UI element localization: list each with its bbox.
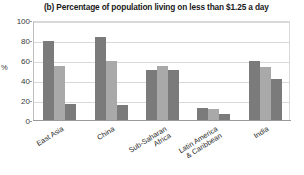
chart-title: (b) Percentage of population living on l… (44, 2, 300, 12)
y-tick-label: 100 (4, 17, 30, 26)
bar (117, 105, 128, 121)
bar (260, 67, 271, 121)
gridline (34, 42, 289, 43)
bar (271, 79, 282, 121)
y-tick-label: 20 (4, 97, 30, 106)
bar (157, 66, 168, 121)
y-tick-mark (29, 21, 32, 22)
y-tick-label: 60 (4, 57, 30, 66)
x-tick-label-line: India (252, 124, 270, 140)
x-tick-label-line: East Asia (34, 124, 65, 148)
y-tick-mark (29, 41, 32, 42)
y-tick-mark (29, 121, 32, 122)
chart-figure: (b) Percentage of population living on l… (0, 0, 304, 175)
y-tick-label: 80 (4, 37, 30, 46)
bar (168, 70, 179, 121)
y-tick-mark (29, 101, 32, 102)
bar (65, 104, 76, 121)
y-tick-mark (29, 81, 32, 82)
bar (43, 41, 54, 121)
bar (54, 66, 65, 121)
y-tick-label: 0 (4, 117, 30, 126)
x-tick-label-line: China (95, 124, 116, 142)
y-axis: 020406080100 (0, 21, 30, 121)
y-tick-label: 40 (4, 77, 30, 86)
bar (95, 37, 106, 121)
plot-area (33, 21, 290, 121)
bar (146, 70, 157, 121)
bar (106, 61, 117, 121)
y-tick-mark (29, 61, 32, 62)
gridline (34, 22, 289, 23)
bar (249, 61, 260, 121)
x-axis-labels: East AsiaChinaSub-SaharanAfricaLatin Ame… (33, 121, 291, 175)
